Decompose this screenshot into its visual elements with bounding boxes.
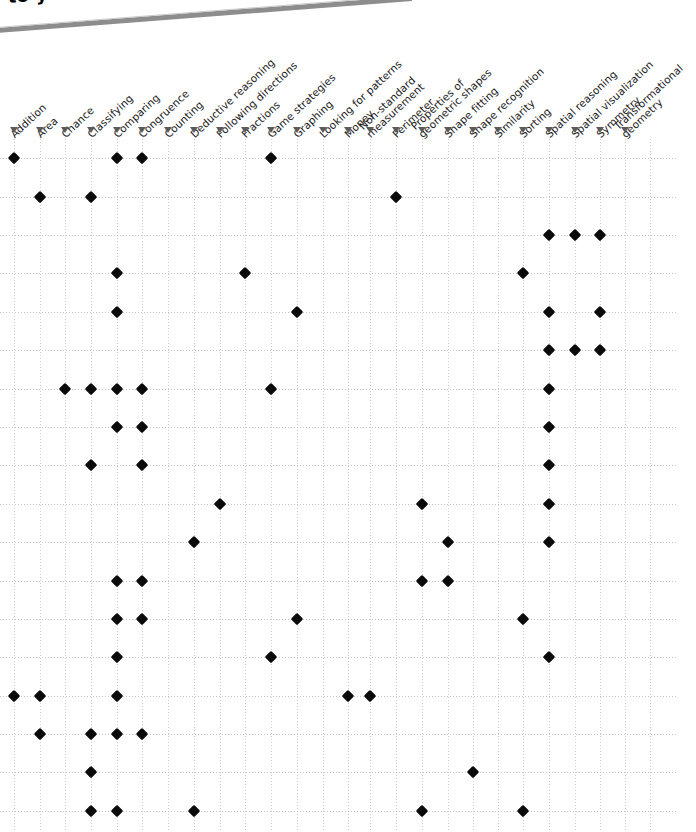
diamond-marker [85,766,98,779]
grid-hline [0,734,676,735]
grid-hline [0,657,676,658]
grid-hline [0,427,676,428]
grid-vline [473,139,474,832]
triangle-down-icon [392,127,400,133]
grid-hline [0,273,676,274]
grid-vline [523,139,524,832]
grid-vline [271,139,272,832]
grid-hline [0,619,676,620]
diamond-marker [291,613,304,626]
grid-vline [370,139,371,832]
grid-vline [323,139,324,832]
triangle-down-icon [293,127,301,133]
triangle-down-icon [469,127,477,133]
triangle-down-icon [571,127,579,133]
diamond-marker [111,728,124,741]
diamond-marker [594,344,607,357]
diamond-marker [543,229,556,242]
triangle-down-icon [10,127,18,133]
grid-vline [194,139,195,832]
triangle-down-icon [216,127,224,133]
diamond-marker [111,651,124,664]
diamond-marker [136,613,149,626]
diamond-marker [291,306,304,319]
diamond-marker [265,152,278,165]
grid-vline [297,139,298,832]
diamond-marker [543,459,556,472]
diamond-marker [543,421,556,434]
diamond-marker [111,267,124,280]
diamond-marker [34,191,47,204]
triangle-down-icon [319,127,327,133]
diamond-marker [569,229,582,242]
diamond-marker [416,805,429,818]
triangle-down-icon [418,127,426,133]
diamond-marker [136,575,149,588]
diamond-marker [136,459,149,472]
grid-vline [422,139,423,832]
diamond-marker [85,459,98,472]
grid-hline [0,581,676,582]
diamond-marker [85,191,98,204]
grid-vline [220,139,221,832]
diamond-marker [111,152,124,165]
triangle-down-icon [444,127,452,133]
diamond-marker [517,267,530,280]
diamond-marker [543,536,556,549]
grid-vline [348,139,349,832]
diamond-marker [85,383,98,396]
diamond-marker [239,267,252,280]
grid-vline [14,139,15,832]
diamond-marker [8,690,21,703]
triangle-down-icon [113,127,121,133]
diamond-marker [467,766,480,779]
triangle-down-icon [494,127,502,133]
grid-vline [625,139,626,832]
diamond-marker [517,613,530,626]
diamond-marker [594,306,607,319]
grid-vline [65,139,66,832]
diamond-marker [111,306,124,319]
matrix-grid [0,139,696,832]
grid-vline [575,139,576,832]
triangle-down-icon [519,127,527,133]
diamond-marker [543,498,556,511]
triangle-down-icon [621,127,629,133]
diamond-marker [543,344,556,357]
diamond-marker [214,498,227,511]
grid-vline [245,139,246,832]
diamond-marker [85,805,98,818]
triangle-down-icon [545,127,553,133]
grid-hline [0,811,676,812]
diamond-marker [111,421,124,434]
grid-hline [0,772,676,773]
diamond-marker [543,306,556,319]
triangle-down-icon [164,127,172,133]
diamond-marker [136,421,149,434]
grid-vline [549,139,550,832]
diamond-marker [416,575,429,588]
diamond-marker [390,191,403,204]
diamond-marker [34,690,47,703]
diamond-marker [265,651,278,664]
diamond-marker [364,690,377,703]
diamond-marker [111,575,124,588]
diamond-marker [59,383,72,396]
triangle-down-icon [596,127,604,133]
grid-hline [0,158,676,159]
diamond-marker [517,805,530,818]
diamond-marker [188,805,201,818]
triangle-down-icon [267,127,275,133]
diamond-marker [265,383,278,396]
grid-vline [448,139,449,832]
grid-hline [0,465,676,466]
triangle-down-icon [190,127,198,133]
diamond-marker [111,690,124,703]
column-arrows [0,127,696,139]
diamond-marker [543,383,556,396]
triangle-down-icon [138,127,146,133]
diamond-marker [543,651,556,664]
triangle-down-icon [87,127,95,133]
grid-vline [168,139,169,832]
diamond-marker [136,383,149,396]
